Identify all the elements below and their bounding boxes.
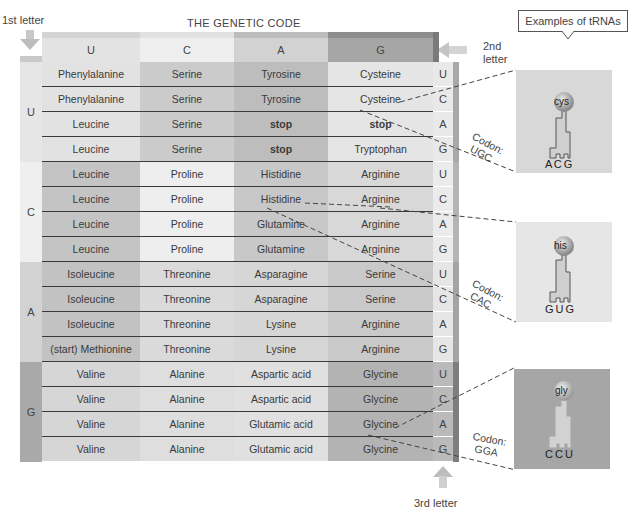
trna-gly-panel: gly C C U <box>514 369 610 469</box>
trna-his-panel: his G U G <box>516 222 612 322</box>
anticodon-label: G U G <box>545 303 574 315</box>
anticodon-label: A C G <box>545 158 572 170</box>
amino-acid-label: gly <box>555 385 568 396</box>
anticodon-label: C C U <box>545 448 572 460</box>
trna-cys-panel: cys A C G <box>516 70 612 173</box>
amino-acid-label: cys <box>554 96 569 107</box>
amino-acid-label: his <box>554 240 567 251</box>
